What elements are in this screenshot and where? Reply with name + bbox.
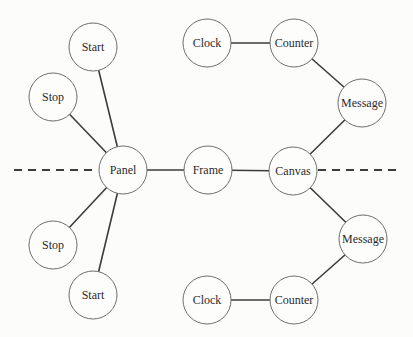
node-label-start-bottom: Start xyxy=(82,288,105,302)
node-label-start-top: Start xyxy=(82,40,105,54)
node-message-bottom: Message xyxy=(339,215,387,263)
node-label-stop-bottom: Stop xyxy=(42,238,64,252)
node-label-frame: Frame xyxy=(193,163,224,177)
node-label-clock-top: Clock xyxy=(193,36,222,50)
node-frame: Frame xyxy=(184,146,232,194)
node-clock-top: Clock xyxy=(183,19,231,67)
node-message-top: Message xyxy=(338,79,386,127)
node-counter-top: Counter xyxy=(270,19,318,67)
node-panel: Panel xyxy=(99,146,147,194)
node-label-message-bottom: Message xyxy=(342,232,384,246)
node-start-top: Start xyxy=(69,23,117,71)
diagram-page: StartStopClockCounterMessagePanelFrameCa… xyxy=(0,0,413,337)
node-label-message-top: Message xyxy=(341,96,383,110)
node-label-panel: Panel xyxy=(110,163,137,177)
node-label-counter-top: Counter xyxy=(275,36,314,50)
node-label-clock-bottom: Clock xyxy=(193,293,222,307)
node-stop-bottom: Stop xyxy=(29,221,77,269)
network-diagram: StartStopClockCounterMessagePanelFrameCa… xyxy=(0,0,413,337)
node-label-stop-top: Stop xyxy=(42,90,64,104)
node-label-counter-bottom: Counter xyxy=(275,293,314,307)
node-label-canvas: Canvas xyxy=(275,164,311,178)
node-stop-top: Stop xyxy=(29,73,77,121)
node-layer: StartStopClockCounterMessagePanelFrameCa… xyxy=(29,19,387,324)
node-clock-bottom: Clock xyxy=(183,276,231,324)
node-counter-bottom: Counter xyxy=(270,276,318,324)
node-start-bottom: Start xyxy=(69,271,117,319)
node-canvas: Canvas xyxy=(269,147,317,195)
